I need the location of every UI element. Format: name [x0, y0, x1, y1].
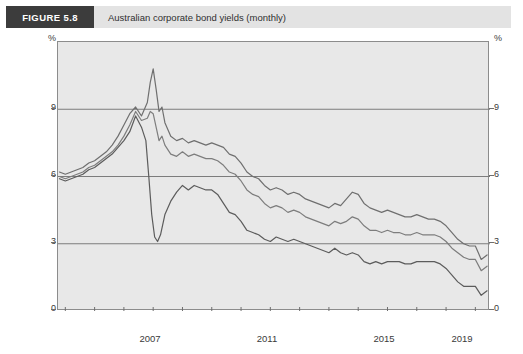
- figure-number-tag: FIGURE 5.8: [6, 6, 94, 28]
- x-tick-marks-group: [65, 307, 475, 311]
- figure-page: FIGURE 5.8 Australian corporate bond yie…: [0, 0, 523, 354]
- x-tick-label-2019: 2019: [437, 333, 487, 344]
- chart-plot-area: [57, 41, 489, 310]
- x-tick-label-2011: 2011: [242, 333, 292, 344]
- y-tick-label-right-6: 6: [494, 169, 523, 179]
- y-tick-mark-3: [51, 242, 56, 243]
- y-tick-label-9: 9: [22, 102, 56, 112]
- y-tick-label-6: 6: [22, 169, 56, 179]
- series-group: [59, 69, 487, 295]
- figure-header: FIGURE 5.8 Australian corporate bond yie…: [6, 6, 511, 28]
- y-tick-label-right-0: 0: [494, 303, 523, 313]
- y-tick-mark-0: [51, 309, 56, 310]
- y-tick-label-right-3: 3: [494, 236, 523, 246]
- y-tick-label-0: 0: [22, 303, 56, 313]
- series-line-a: [59, 111, 487, 270]
- chart-svg: [58, 42, 490, 311]
- gridlines-group: [58, 109, 490, 244]
- series-line-swap: [59, 116, 487, 295]
- x-tick-label-2007: 2007: [125, 333, 175, 344]
- y-axis-unit-right: %: [494, 33, 523, 43]
- y-tick-mark-6: [51, 175, 56, 176]
- figure-caption: Australian corporate bond yields (monthl…: [94, 6, 511, 28]
- y-axis-unit-left: %: [22, 33, 56, 43]
- y-tick-label-right-9: 9: [494, 102, 523, 112]
- series-line-bbb: [59, 69, 487, 260]
- y-tick-label-3: 3: [22, 236, 56, 246]
- x-tick-label-2015: 2015: [359, 333, 409, 344]
- y-tick-mark-9: [51, 108, 56, 109]
